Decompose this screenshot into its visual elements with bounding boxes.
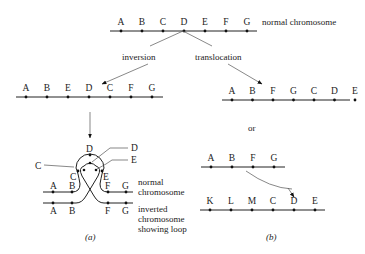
gene-label: K <box>207 196 214 206</box>
gene-locus-dot <box>252 166 255 169</box>
loop-top-a: A <box>50 181 57 191</box>
loop-bottom-a: A <box>50 206 57 216</box>
gene-label: A <box>118 17 125 27</box>
gene-label: F <box>223 17 228 27</box>
gene-locus-dot <box>209 209 212 212</box>
gene-label: G <box>290 86 297 96</box>
inversion-arrow <box>102 64 148 84</box>
gene-label: E <box>312 196 318 206</box>
loop-top-b: B <box>69 181 75 191</box>
gene-label: D <box>291 196 298 206</box>
loop-callout-c: C <box>35 161 41 171</box>
gene-locus-dot <box>46 96 49 99</box>
loop-bottom-b: B <box>69 206 75 216</box>
inverted-label-line1: inverted <box>138 204 168 214</box>
gene-locus-dot <box>225 30 228 33</box>
translocated-chromosome: ABFGCDE <box>222 86 358 101</box>
gene-label: E <box>202 17 208 27</box>
gene-locus-dot <box>246 30 249 33</box>
inversion-loop: C D E C D E A B F G A B F G normal chrom… <box>35 143 187 234</box>
gene-locus-dot <box>204 30 207 33</box>
chromosome-diagram: ABCDEFG normal chromosome inversion tran… <box>0 0 365 254</box>
gene-label: D <box>86 83 93 93</box>
gene-locus-dot <box>210 166 213 169</box>
gene-locus-dot <box>272 209 275 212</box>
loop-inner-d: D <box>86 144 93 154</box>
gene-locus-dot <box>231 166 234 169</box>
gene-locus-dot <box>354 99 357 102</box>
gene-locus-dot <box>251 99 254 102</box>
gene-label: B <box>44 83 50 93</box>
loop-bottom-f: F <box>105 206 110 216</box>
gene-locus-dot <box>273 166 276 169</box>
translocation-label: translocation <box>195 52 242 62</box>
gene-label: G <box>271 153 278 163</box>
caption-a: (a) <box>85 232 96 242</box>
translocation-arrow <box>228 64 262 84</box>
gene-locus-dot <box>231 99 234 102</box>
normal-label-line1: normal <box>138 177 164 187</box>
loop-top-g: G <box>122 181 129 191</box>
gene-label: C <box>107 83 113 93</box>
gene-label: F <box>128 83 133 93</box>
caption-b: (b) <box>266 232 277 242</box>
normal-chromosome: ABCDEFG normal chromosome <box>110 17 336 32</box>
gene-label: F <box>270 86 275 96</box>
translocation-pair: ABFG KLMCDE <box>200 153 325 211</box>
gene-locus-dot <box>151 96 154 99</box>
gene-locus-dot <box>130 96 133 99</box>
gene-locus-dot <box>251 209 254 212</box>
inverted-chromosome: ABEDCFG <box>16 83 163 98</box>
gene-locus-dot <box>120 30 123 33</box>
gene-label: F <box>250 153 255 163</box>
loop-bottom-g: G <box>122 206 129 216</box>
or-label: or <box>248 123 256 133</box>
gene-locus-dot <box>162 30 165 33</box>
gene-locus-dot <box>333 99 336 102</box>
gene-locus-dot <box>25 96 28 99</box>
gene-locus-dot <box>293 209 296 212</box>
normal-chromosome-label: normal chromosome <box>262 17 336 27</box>
gene-locus-dot <box>313 99 316 102</box>
gene-locus-dot <box>67 96 70 99</box>
normal-label-line2: chromosome <box>138 187 185 197</box>
gene-label: G <box>149 83 156 93</box>
loop-top-f: F <box>105 181 110 191</box>
gene-label: C <box>270 196 276 206</box>
loop-callout-e: E <box>131 155 137 165</box>
inversion-branch-line <box>150 31 183 46</box>
gene-locus-dot <box>272 99 275 102</box>
loop-callout-d: D <box>131 143 138 153</box>
gene-label: C <box>160 17 166 27</box>
gene-label: E <box>352 86 358 96</box>
gene-label: G <box>244 17 251 27</box>
gene-locus-dot <box>88 96 91 99</box>
gene-locus-dot <box>230 209 233 212</box>
gene-label: M <box>248 196 257 206</box>
gene-locus-dot <box>141 30 144 33</box>
inversion-label: inversion <box>122 52 156 62</box>
gene-label: E <box>65 83 71 93</box>
inverted-label-line3: showing loop <box>138 224 187 234</box>
gene-locus-dot <box>109 96 112 99</box>
gene-label: A <box>23 83 30 93</box>
gene-label: B <box>139 17 145 27</box>
gene-label: L <box>228 196 234 206</box>
gene-locus-dot <box>314 209 317 212</box>
gene-label: A <box>208 153 215 163</box>
gene-label: B <box>249 86 255 96</box>
gene-label: D <box>181 17 188 27</box>
gene-label: B <box>229 153 235 163</box>
gene-label: D <box>331 86 338 96</box>
inverted-label-line2: chromosome <box>138 214 185 224</box>
gene-label: C <box>311 86 317 96</box>
gene-locus-dot <box>292 99 295 102</box>
translocation-branch-line <box>183 31 212 46</box>
gene-label: A <box>229 86 236 96</box>
